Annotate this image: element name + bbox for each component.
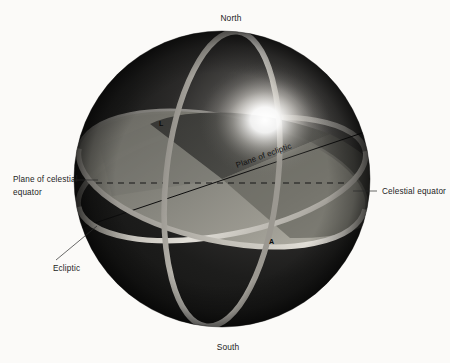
label-plane-of-celestial-equator-line1: Plane of celestial: [13, 175, 78, 184]
label-north: North: [220, 13, 241, 23]
label-south: South: [217, 342, 240, 352]
sphere-vignette: [74, 31, 370, 327]
celestial-sphere-svg: L A North South Plane of celestial equat…: [0, 0, 450, 363]
marker-upper-left: L: [159, 120, 164, 127]
label-celestial-equator: Celestial equator: [382, 187, 446, 196]
marker-lower-right: A: [269, 238, 274, 245]
label-ecliptic: Ecliptic: [53, 264, 80, 273]
label-plane-of-celestial-equator-line2: equator: [13, 188, 42, 197]
celestial-sphere-figure: L A North South Plane of celestial equat…: [0, 0, 450, 363]
